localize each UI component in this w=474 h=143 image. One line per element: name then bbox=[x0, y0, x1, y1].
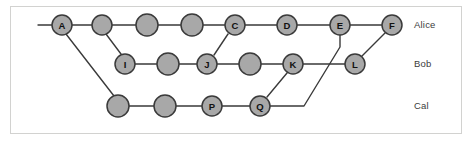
commit-node-label-i: I bbox=[124, 59, 127, 70]
commit-node-bob2[interactable] bbox=[157, 53, 179, 75]
commit-node-label-c: C bbox=[232, 20, 239, 31]
commit-node-cal1[interactable] bbox=[107, 95, 129, 117]
commit-node-circle-alice3[interactable] bbox=[136, 14, 158, 36]
commit-node-label-l: L bbox=[352, 59, 358, 70]
commit-node-p[interactable]: P bbox=[202, 96, 222, 116]
commit-node-d[interactable]: D bbox=[277, 15, 297, 35]
lane-label-alice: Alice bbox=[414, 19, 436, 30]
commit-node-alice2[interactable] bbox=[92, 15, 112, 35]
graph-edge-q-to-k bbox=[267, 73, 287, 97]
commit-node-k[interactable]: K bbox=[283, 54, 303, 74]
commit-node-label-k: K bbox=[290, 59, 297, 70]
graph-edge-a-to-cal1 bbox=[66, 34, 114, 96]
commit-node-label-d: D bbox=[284, 20, 291, 31]
lane-label-cal: Cal bbox=[414, 100, 429, 111]
commit-node-circle-alice2[interactable] bbox=[92, 15, 112, 35]
commit-node-l[interactable]: L bbox=[345, 54, 365, 74]
commit-node-label-p: P bbox=[209, 101, 216, 112]
graph-canvas: ACDEFIJKLPQ bbox=[0, 0, 474, 143]
nodes-layer: ACDEFIJKLPQ bbox=[52, 14, 402, 117]
commit-node-circle-bob4[interactable] bbox=[239, 53, 261, 75]
commit-node-f[interactable]: F bbox=[382, 15, 402, 35]
commit-node-label-j: J bbox=[204, 59, 209, 70]
commit-node-i[interactable]: I bbox=[115, 54, 135, 74]
commit-node-label-q: Q bbox=[256, 101, 263, 112]
commit-node-label-a: A bbox=[59, 20, 66, 31]
graph-edge-l-to-f bbox=[362, 33, 385, 56]
commit-node-label-e: E bbox=[337, 20, 343, 31]
commit-node-label-f: F bbox=[389, 20, 395, 31]
commit-node-e[interactable]: E bbox=[330, 15, 350, 35]
lane-label-bob: Bob bbox=[414, 58, 432, 69]
commit-node-circle-cal2[interactable] bbox=[154, 95, 176, 117]
commit-node-alice4[interactable] bbox=[181, 14, 203, 36]
commit-node-bob4[interactable] bbox=[239, 53, 261, 75]
commit-node-q[interactable]: Q bbox=[250, 96, 270, 116]
commit-node-alice3[interactable] bbox=[136, 14, 158, 36]
graph-edge-b-to-i bbox=[106, 34, 121, 54]
commit-node-j[interactable]: J bbox=[197, 54, 217, 74]
commit-node-a[interactable]: A bbox=[52, 15, 72, 35]
commit-node-c[interactable]: C bbox=[225, 15, 245, 35]
graph-edge-j-to-c bbox=[214, 34, 228, 55]
commit-node-circle-alice4[interactable] bbox=[181, 14, 203, 36]
commit-graph-figure: ACDEFIJKLPQ AliceBobCal bbox=[0, 0, 474, 143]
commit-node-circle-bob2[interactable] bbox=[157, 53, 179, 75]
graph-edge-q-to-e bbox=[270, 35, 340, 106]
commit-node-cal2[interactable] bbox=[154, 95, 176, 117]
commit-node-circle-cal1[interactable] bbox=[107, 95, 129, 117]
